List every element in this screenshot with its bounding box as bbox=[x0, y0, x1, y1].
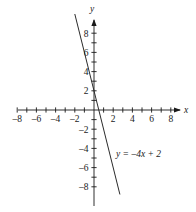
axes-group bbox=[18, 20, 180, 206]
equation-annotation: y = –4x + 2 bbox=[115, 149, 161, 159]
x-axis-arrowhead bbox=[174, 107, 181, 112]
x-axis-tick-label: –6 bbox=[31, 114, 42, 124]
y-axis-tick-label: –4 bbox=[78, 144, 89, 154]
x-axis-tick-label: –4 bbox=[50, 114, 61, 124]
axis-arrowheads-group bbox=[91, 19, 181, 113]
plot-area: –8–6–4–22468 8642–2–4–6–8 x y y = –4x + … bbox=[0, 0, 196, 212]
y-axis-tick-label: –8 bbox=[78, 182, 89, 192]
coordinate-graph-figure: –8–6–4–22468 8642–2–4–6–8 x y y = –4x + … bbox=[0, 0, 196, 212]
x-axis-tick-label: 6 bbox=[149, 114, 154, 124]
x-axis-tick-label: 4 bbox=[130, 114, 135, 124]
x-axis-tick-label: –2 bbox=[69, 114, 80, 124]
y-axis-arrowhead bbox=[91, 19, 96, 26]
x-axis-label: x bbox=[183, 105, 189, 115]
y-axis-tick-label: –2 bbox=[78, 125, 89, 135]
x-axis-tick-label: 2 bbox=[111, 114, 116, 124]
y-axis-tick-label: 6 bbox=[84, 48, 89, 58]
y-axis-tick-label: 2 bbox=[84, 86, 89, 96]
x-axis-tick-label: 8 bbox=[168, 114, 173, 124]
y-axis-tick-label: –6 bbox=[78, 163, 89, 173]
x-axis-tick-labels-group: –8–6–4–22468 bbox=[11, 114, 173, 124]
y-axis-label: y bbox=[89, 4, 95, 14]
x-axis-tick-label: –8 bbox=[11, 114, 22, 124]
y-axis-tick-label: 8 bbox=[84, 29, 89, 39]
y-axis-tick-label: 4 bbox=[84, 67, 89, 77]
